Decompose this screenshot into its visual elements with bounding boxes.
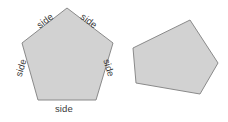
shapes-illustration <box>0 0 228 122</box>
figure-canvas: side side side side side <box>0 0 228 122</box>
irregular-pentagon-shape <box>133 20 218 94</box>
pentagon-edge-label-bottom: side <box>55 104 73 114</box>
